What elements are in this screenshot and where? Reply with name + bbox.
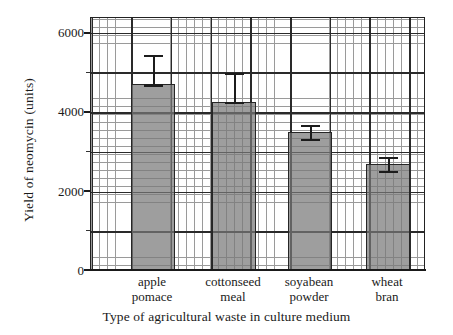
x-axis-title: Type of agricultural waste in culture me… [0,309,453,325]
x-tick-line2: bran [345,289,429,304]
error-bar-line [153,55,155,87]
bar-wheat-bran [366,164,410,269]
error-bar-cap-top [301,125,320,127]
plot-area [90,17,425,270]
x-tick-label-soyabean-powder: soyabean powder [267,274,351,304]
x-tick-line2: powder [267,289,351,304]
x-tick-line1: wheat [371,274,402,289]
error-bar-cap-top [225,73,244,75]
gridline-major-5000 [91,72,424,74]
gridline-major-v-0 [92,18,94,269]
x-tick-line1: soyabean [285,274,333,289]
y-tick-label-4000: 4000 [38,105,84,118]
x-tick-line2: meal [191,289,275,304]
x-tick-line1: cottonseed [205,274,261,289]
x-tick-label-apple-pomace: apple pomace [110,274,194,304]
error-bar-cap-bottom [379,171,398,173]
error-bar-apple-pomace [153,55,154,87]
bar-cottonseed-meal [212,102,256,269]
error-bar-cottonseed-meal [234,73,235,105]
x-tick-line2: pomace [110,289,194,304]
x-tick-label-wheat-bran: wheat bran [345,274,429,304]
error-bar-soyabean-powder [310,125,311,141]
error-bar-line [234,73,236,105]
bar-apple-pomace [131,84,175,269]
x-tick-line1: apple [138,274,166,289]
gridline-major-6000 [91,33,424,35]
y-tick-label-0: 0 [38,264,84,277]
y-axis-tick-labels: 0 2000 4000 6000 [38,0,84,335]
error-bar-cap-top [144,55,163,57]
error-bar-wheat-bran [388,157,389,173]
y-tick-label-6000: 6000 [38,25,84,38]
error-bar-cap-bottom [225,102,244,104]
x-tick-label-cottonseed-meal: cottonseed meal [191,274,275,304]
error-bar-cap-bottom [144,84,163,86]
y-tick-label-2000: 2000 [38,184,84,197]
error-bar-cap-top [379,157,398,159]
x-axis-line [84,269,426,271]
chart-figure: Yield of neomycin (units) 0 2000 4000 60… [0,0,453,335]
error-bar-cap-bottom [301,139,320,141]
bar-soyabean-powder [288,132,332,269]
